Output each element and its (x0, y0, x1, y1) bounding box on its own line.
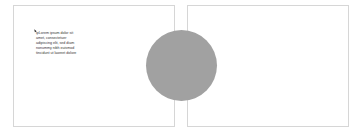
text-box[interactable]: ipLorem ipsum dolor sit amet, consectetu… (36, 31, 81, 56)
circle-shape[interactable] (146, 30, 217, 101)
